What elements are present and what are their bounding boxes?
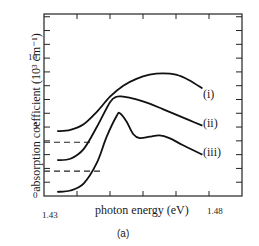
curve-iii bbox=[57, 113, 202, 192]
curve-label-i: (i) bbox=[203, 87, 214, 102]
axis-ticks bbox=[44, 14, 242, 196]
x-axis-label: photon energy (eV) bbox=[95, 203, 189, 218]
data-curves bbox=[57, 73, 202, 192]
x-tick-label-end: 1.48 bbox=[207, 206, 223, 216]
curve-label-iii: (iii) bbox=[203, 145, 221, 160]
y-tick-label-5: 5 bbox=[33, 121, 38, 131]
y-axis-label: absorption coefficient (10³ cm⁻¹) bbox=[29, 13, 44, 213]
x-tick-label-start: 1.43 bbox=[42, 210, 58, 220]
y-tick-label-10: 10 bbox=[28, 52, 37, 62]
curve-i bbox=[57, 73, 202, 131]
y-tick-label-0: 0 bbox=[33, 190, 38, 200]
panel-label: (a) bbox=[117, 228, 129, 239]
curve-label-ii: (ii) bbox=[203, 116, 218, 131]
axes-frame bbox=[44, 14, 242, 196]
